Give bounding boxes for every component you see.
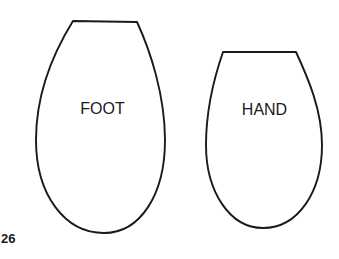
foot-shape: FOOT xyxy=(36,21,165,233)
hand-label: HAND xyxy=(242,101,287,118)
diagram-canvas: FOOT HAND 26 xyxy=(0,0,339,259)
hand-shape: HAND xyxy=(206,52,322,228)
foot-label: FOOT xyxy=(80,100,125,117)
foot-outline xyxy=(36,21,165,233)
hand-outline xyxy=(206,52,322,228)
figure-number: 26 xyxy=(1,231,15,246)
